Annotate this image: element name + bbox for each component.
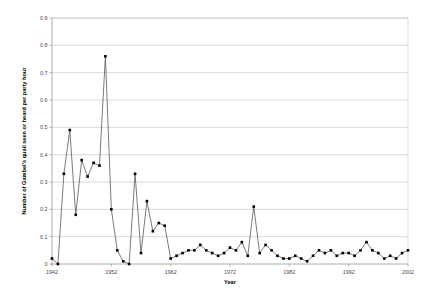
y-axis-title: Number of Gambel's quail seen or heard p… <box>21 67 27 215</box>
data-point-marker <box>122 260 125 263</box>
data-point-marker <box>152 230 155 233</box>
x-axis-tick-label: 1972 <box>224 269 236 275</box>
data-point-marker <box>187 249 190 252</box>
chart-canvas: 00.10.20.30.40.50.60.70.80.9 19421952196… <box>0 0 423 303</box>
data-series-markers <box>51 55 410 265</box>
data-point-marker <box>300 257 303 260</box>
data-point-marker <box>63 173 66 176</box>
data-point-marker <box>312 255 315 258</box>
data-point-marker <box>288 257 291 260</box>
data-point-marker <box>51 257 54 260</box>
data-point-marker <box>98 164 101 167</box>
y-axis-tick-label: 0.7 <box>40 70 48 76</box>
data-point-marker <box>193 249 196 252</box>
data-point-marker <box>92 162 95 165</box>
data-point-marker <box>74 214 77 217</box>
y-axis-tick-label: 0.1 <box>40 234 48 240</box>
y-axis-tick-label: 0.2 <box>40 206 48 212</box>
y-axis-tick-label: 0.5 <box>40 124 48 130</box>
data-point-marker <box>217 255 220 258</box>
data-point-marker <box>158 222 161 225</box>
data-point-marker <box>229 246 232 249</box>
y-axis-tick-label: 0.9 <box>40 15 48 21</box>
x-axis-title: Year <box>224 279 237 285</box>
data-point-marker <box>252 205 255 208</box>
data-point-marker <box>407 249 410 252</box>
data-point-marker <box>270 249 273 252</box>
data-point-marker <box>86 175 89 178</box>
data-point-marker <box>128 263 131 266</box>
x-axis-tick-labels: 1942195219621972198219922002 <box>46 269 414 275</box>
data-point-marker <box>389 255 392 258</box>
data-point-marker <box>146 200 149 203</box>
data-point-marker <box>199 244 202 247</box>
data-point-marker <box>175 255 178 258</box>
data-point-marker <box>401 252 404 255</box>
gridlines <box>52 18 408 237</box>
data-point-marker <box>181 252 184 255</box>
data-point-marker <box>282 257 285 260</box>
y-axis-tick-label: 0.4 <box>40 152 48 158</box>
data-point-marker <box>258 252 261 255</box>
data-point-marker <box>324 252 327 255</box>
data-point-marker <box>69 129 72 132</box>
data-point-marker <box>104 55 107 58</box>
data-point-marker <box>336 255 339 258</box>
x-axis-tick-label: 1962 <box>165 269 177 275</box>
y-axis-tick-labels: 00.10.20.30.40.50.60.70.80.9 <box>40 15 48 267</box>
x-axis-tick-label: 1982 <box>283 269 295 275</box>
data-point-marker <box>247 255 250 258</box>
y-axis-tick-label: 0.6 <box>40 97 48 103</box>
plot-frame <box>52 18 408 264</box>
data-point-marker <box>383 257 386 260</box>
x-axis-tick-label: 1942 <box>46 269 58 275</box>
data-point-marker <box>306 260 309 263</box>
data-point-marker <box>57 263 60 266</box>
y-axis-tick-label: 0 <box>45 261 48 267</box>
data-point-marker <box>359 249 362 252</box>
data-point-marker <box>169 257 172 260</box>
data-point-marker <box>241 241 244 244</box>
data-point-marker <box>276 255 279 258</box>
data-point-marker <box>80 159 83 162</box>
quail-trend-chart: 00.10.20.30.40.50.60.70.80.9 19421952196… <box>0 0 423 303</box>
y-axis-tick-label: 0.8 <box>40 42 48 48</box>
data-point-marker <box>223 252 226 255</box>
data-point-marker <box>347 252 350 255</box>
data-point-marker <box>330 249 333 252</box>
data-point-marker <box>353 255 356 258</box>
data-point-marker <box>371 249 374 252</box>
y-axis-tick-label: 0.3 <box>40 179 48 185</box>
data-point-marker <box>264 244 267 247</box>
x-axis-tick-label: 1952 <box>105 269 117 275</box>
data-point-marker <box>134 173 137 176</box>
data-point-marker <box>365 241 368 244</box>
data-point-marker <box>235 249 238 252</box>
data-point-marker <box>395 257 398 260</box>
data-point-marker <box>318 249 321 252</box>
data-point-marker <box>163 224 166 227</box>
x-axis-tick-label: 2002 <box>402 269 414 275</box>
data-series-line <box>52 56 408 264</box>
data-point-marker <box>140 252 143 255</box>
data-point-marker <box>294 255 297 258</box>
data-point-marker <box>377 252 380 255</box>
data-point-marker <box>211 252 214 255</box>
data-point-marker <box>116 249 119 252</box>
data-point-marker <box>110 208 113 211</box>
x-axis-tick-label: 1992 <box>343 269 355 275</box>
data-point-marker <box>205 249 208 252</box>
data-point-marker <box>341 252 344 255</box>
